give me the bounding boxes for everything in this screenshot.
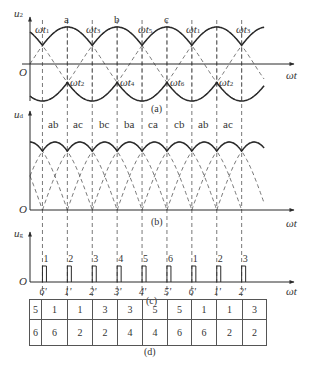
table-cell: 3 xyxy=(93,300,118,320)
table-cell: 1 xyxy=(68,300,93,320)
origin-label-b: O xyxy=(19,204,27,215)
pulse-bottom-label: 5' xyxy=(164,286,171,297)
pulse-bottom-label: 4' xyxy=(139,286,146,297)
pulse-bottom-label: 3' xyxy=(114,286,121,297)
table-cell: 6 xyxy=(42,320,68,346)
table-cell: 5 xyxy=(168,300,192,320)
crossing-label-bottom: ωt4 xyxy=(120,77,134,90)
table-cell: 4 xyxy=(118,320,143,346)
table-cell: 1 xyxy=(192,300,217,320)
table-cell: 1 xyxy=(217,300,243,320)
pulse-top-label: 1 xyxy=(43,253,48,264)
y-axis-subscript-b: d xyxy=(20,112,24,120)
pulse-top-label: 2 xyxy=(218,253,223,264)
pulse-bottom-label: 2' xyxy=(239,286,246,297)
pulse-top-label: 3 xyxy=(243,253,248,264)
crossing-label-top: ωt1 xyxy=(186,24,200,37)
table-cell: 5 xyxy=(143,300,168,320)
segment-label: cb xyxy=(174,119,184,130)
pulse-top-label: 5 xyxy=(143,253,148,264)
segment-label: ac xyxy=(73,119,83,130)
table-cell: 6 xyxy=(168,320,192,346)
segment-label: ab xyxy=(48,119,58,130)
origin-label-a: O xyxy=(19,67,27,78)
pulse-top-label: 4 xyxy=(118,253,123,264)
crossing-label-bottom: ωt2 xyxy=(70,77,84,90)
pulse-top-label: 1 xyxy=(193,253,198,264)
pulse-bottom-label: 6' xyxy=(39,286,46,297)
table-cell: 2 xyxy=(68,320,93,346)
crossing-label-top: ωt1 xyxy=(35,24,49,37)
panel-c-gate-pulses xyxy=(42,266,245,282)
table-cell: 2 xyxy=(93,320,118,346)
crossing-label-bottom: ωt2 xyxy=(219,77,233,90)
table-cell: 6 xyxy=(192,320,217,346)
segment-label: ba xyxy=(124,119,134,130)
y-axis-label-a: u2 xyxy=(14,8,23,21)
pulse-bottom-label: 6' xyxy=(189,286,196,297)
peak-label-b: b xyxy=(114,14,120,25)
y-axis-label-c: ug xyxy=(14,228,23,241)
caption-b: (b) xyxy=(151,216,163,227)
table-row: 5 1 1 3 3 5 5 1 1 3 xyxy=(30,300,267,320)
conduction-sequence-table: 5 1 1 3 3 5 5 1 1 3 6 6 2 2 4 4 6 6 2 2 xyxy=(29,299,267,346)
pulse-top-label: 3 xyxy=(93,253,98,264)
table-cell: 2 xyxy=(243,320,267,346)
crossing-label-bottom: ωt6 xyxy=(170,77,184,90)
x-axis-label-c: ωt xyxy=(286,286,297,297)
pulse-bottom-label: 2' xyxy=(89,286,96,297)
x-axis-label-b: ωt xyxy=(286,218,297,229)
panel-b-output-voltage xyxy=(30,142,264,210)
crossing-label-top: ωt5 xyxy=(138,24,152,37)
table-cell: 6 xyxy=(30,320,42,346)
table-cell: 5 xyxy=(30,300,42,320)
y-axis-subscript-c: g xyxy=(20,231,24,239)
segment-label: ac xyxy=(223,119,233,130)
table-cell: 4 xyxy=(143,320,168,346)
caption-a: (a) xyxy=(151,103,162,114)
crossing-label-top: ωt3 xyxy=(236,24,250,37)
peak-label-a: a xyxy=(64,14,69,25)
table-cell: 3 xyxy=(118,300,143,320)
table-cell: 2 xyxy=(217,320,243,346)
segment-label: ab xyxy=(198,119,208,130)
table-cell: 1 xyxy=(42,300,68,320)
table-row: 6 6 2 2 4 4 6 6 2 2 xyxy=(30,320,267,346)
table-cell: 3 xyxy=(243,300,267,320)
pulse-bottom-label: 1' xyxy=(64,286,71,297)
caption-d: (d) xyxy=(144,346,156,357)
pulse-top-label: 6 xyxy=(168,253,173,264)
segment-label: bc xyxy=(99,119,109,130)
pulse-top-label: 2 xyxy=(68,253,73,264)
peak-label-c: c xyxy=(164,14,169,25)
y-axis-subscript-a: 2 xyxy=(20,11,24,19)
segment-label: ca xyxy=(148,119,158,130)
origin-label-c: O xyxy=(19,276,27,287)
pulse-bottom-label: 1' xyxy=(214,286,221,297)
x-axis-label-a: ωt xyxy=(286,70,297,81)
y-axis-label-b: ud xyxy=(14,109,23,122)
crossing-label-top: ωt3 xyxy=(86,24,100,37)
